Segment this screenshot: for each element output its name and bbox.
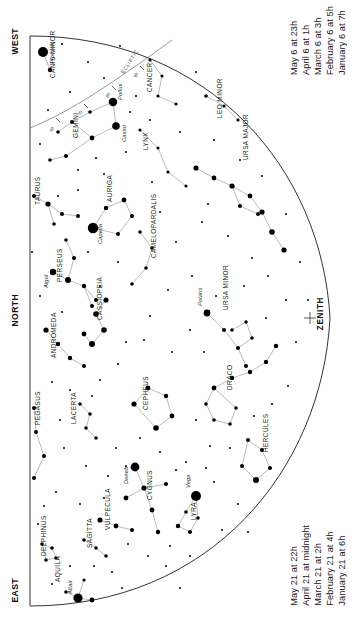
constellation-label-vulpecula: VULPECULA	[104, 488, 111, 530]
compass-label-east: EAST	[10, 578, 20, 603]
constellation-label-perseus: PERSEUS	[56, 248, 63, 282]
date-text: March 21 at	[313, 556, 323, 606]
star-label-capella: Capella	[97, 224, 103, 244]
constellation-label-hercules: HERCULES	[262, 414, 269, 452]
constellation-label-taurus: TAURUS	[34, 177, 41, 206]
star-chart: 60 70 80 90 ECLIPTIC	[0, 0, 352, 636]
zenith-label: ZENITH	[316, 297, 325, 330]
date-list-bottom: May 21 at 22h April 21 at midnight March…	[288, 525, 348, 606]
date-line: January 21 at 6h	[336, 525, 348, 606]
date-time: 7h	[337, 10, 347, 20]
constellation-label-pegasus: PEGASUS	[34, 391, 41, 425]
date-text: April 6 at	[301, 38, 311, 75]
date-text: January 21 at	[337, 549, 347, 606]
date-text: January 6 at	[337, 23, 347, 75]
star-label-pollux: Pollux	[117, 84, 123, 100]
date-text: February 6 at	[325, 19, 335, 75]
star-label-deneb: Deneb	[123, 467, 129, 484]
date-time: 4h	[325, 532, 335, 542]
compass-label-west: WEST	[10, 28, 20, 54]
star-label-procyon: Procyon	[49, 42, 55, 64]
constellation-label-cassiopeia: CASSIOPEIA	[96, 277, 103, 320]
star-polaris	[204, 310, 211, 317]
date-text: May 6 at 23h	[289, 21, 299, 75]
date-text: May 21 at	[289, 565, 299, 606]
star-procyon	[38, 47, 48, 57]
ecliptic-tick-label: 60	[49, 125, 56, 132]
date-time: 22h	[289, 546, 299, 562]
constellation-label-ursa-minor: URSA MINOR	[222, 265, 229, 310]
date-line: April 6 at 1h	[300, 6, 312, 75]
date-time: 3h	[313, 18, 323, 28]
ecliptic-label: ECLIPTIC	[120, 48, 140, 74]
ecliptic-tick-label: 90	[133, 71, 140, 78]
constellation-label-auriga: AURIGA	[106, 175, 113, 202]
date-line: January 6 at 7h	[336, 6, 348, 75]
constellation-label-aquila: AQUILA	[54, 556, 62, 582]
constellation-label-cancer: CANCER	[146, 62, 153, 92]
star-deneb	[131, 463, 140, 472]
date-time: 5h	[325, 6, 335, 16]
constellation-label-cygnus: CYGNUS	[146, 470, 153, 500]
date-time: 1h	[301, 25, 311, 35]
date-line: February 6 at 5h	[324, 6, 336, 75]
compass-label-north: NORTH	[10, 294, 20, 327]
constellation-label-lyra: LYRA	[190, 502, 197, 520]
date-time: 6h	[337, 536, 347, 546]
date-line: April 21 at midnight	[300, 525, 312, 606]
date-line: March 6 at 3h	[312, 6, 324, 75]
date-list-top: May 6 at 23h April 6 at 1h March 6 at 3h…	[288, 6, 348, 75]
star-altair	[73, 593, 82, 602]
constellation-label-andromeda: ANDROMEDA	[50, 312, 57, 358]
star-castor	[112, 122, 120, 130]
star-label-algol: Algol	[43, 274, 49, 289]
zenith-marker	[304, 312, 316, 324]
constellation-label-camelopardalis: CAMELOPARDALIS	[150, 194, 157, 258]
ecliptic-tick-label: 80	[105, 91, 112, 98]
star-labels: Procyon Pollux Castor Capella Algol Pola…	[43, 42, 203, 595]
star-vega	[191, 491, 201, 501]
star-label-castor: Castor	[121, 123, 127, 142]
star-label-altair: Altair	[67, 579, 73, 595]
constellation-label-lynx: LYNX	[142, 132, 149, 150]
date-text: April 21 at midnight	[301, 525, 311, 606]
date-line: May 21 at 22h	[288, 525, 300, 606]
date-time: 2h	[313, 543, 323, 553]
date-text: February 21 at	[325, 545, 335, 606]
constellation-label-delphinus: DELPHINUS	[40, 515, 47, 556]
star-label-vega: Vega	[185, 474, 191, 488]
date-text: March 6 at	[313, 31, 323, 75]
constellation-label-gemini: GEMINI	[72, 113, 79, 138]
constellation-label-draco: DRACO	[226, 365, 233, 390]
constellation-label-lacerta: LACERTA	[70, 392, 77, 424]
constellation-label-cepheus: CEPHEUS	[142, 376, 149, 410]
date-line: March 21 at 2h	[312, 525, 324, 606]
date-line: May 6 at 23h	[288, 6, 300, 75]
constellation-label-ursa-major: URSA MAJOR	[242, 114, 249, 160]
constellation-labels: CANIS MINOR GEMINI CANCER LYNX LEO MINOR…	[34, 30, 269, 582]
date-line: February 21 at 4h	[324, 525, 336, 606]
star-label-polaris: Polaris	[197, 287, 203, 306]
star-pollux	[109, 98, 117, 106]
constellation-label-leo-minor: LEO MINOR	[216, 78, 223, 118]
constellation-label-sagitta: SAGITTA	[86, 518, 93, 548]
